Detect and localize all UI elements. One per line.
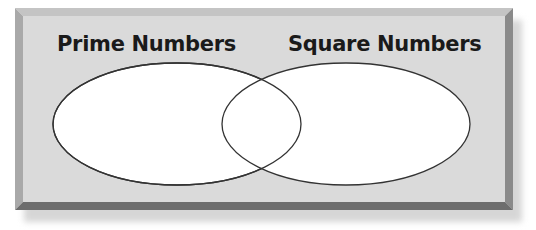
bevel-right xyxy=(505,8,513,210)
bevel-top xyxy=(15,8,513,16)
bevel-left xyxy=(15,8,23,210)
bevel-bottom xyxy=(15,202,513,210)
prime-numbers-label: Prime Numbers xyxy=(57,32,236,56)
square-numbers-label: Square Numbers xyxy=(288,32,482,56)
square-numbers-set-fill xyxy=(222,63,470,185)
